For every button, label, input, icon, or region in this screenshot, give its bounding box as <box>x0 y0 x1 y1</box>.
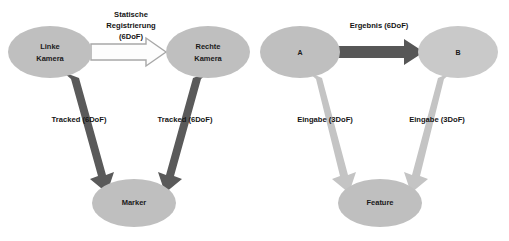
statische-registrierung-label-line1: Statische <box>114 10 148 19</box>
linke-kamera-ellipse <box>8 26 92 78</box>
edge-eingabe-right <box>404 72 452 193</box>
tracked-right-arrow-icon <box>158 72 209 193</box>
rechte-kamera-label-line1: Rechte <box>195 42 220 51</box>
eingabe-left-arrow-icon <box>308 72 356 193</box>
ergebnis-arrow-icon <box>331 39 424 65</box>
eingabe-right-label: Eingabe (3DoF) <box>409 115 465 124</box>
statische-registrierung-arrow-icon <box>91 38 166 66</box>
label-statische-registrierung: Statische Registrierung (6DoF) <box>106 10 156 41</box>
statische-registrierung-label-line3: (6DoF) <box>119 32 144 41</box>
node-a[interactable]: A <box>260 26 340 78</box>
feature-label: Feature <box>366 198 393 207</box>
marker-label: Marker <box>122 198 147 207</box>
node-rechte-kamera[interactable]: Rechte Kamera <box>166 26 250 78</box>
edge-ergebnis <box>331 39 424 65</box>
a-label: A <box>297 49 302 56</box>
edge-eingabe-left <box>308 72 356 193</box>
diagram-svg: Linke Kamera Rechte Kamera Marker Statis… <box>0 0 509 241</box>
rechte-kamera-ellipse <box>166 26 250 78</box>
tracked-right-label: Tracked (6DoF) <box>158 115 213 124</box>
tracked-left-arrow-icon <box>63 72 114 193</box>
diagram-canvas: Linke Kamera Rechte Kamera Marker Statis… <box>0 0 509 241</box>
node-b[interactable]: B <box>418 26 498 78</box>
b-label: B <box>455 49 460 56</box>
eingabe-right-arrow-icon <box>404 72 452 193</box>
linke-kamera-label-line2: Kamera <box>36 54 64 63</box>
edge-tracked-right <box>158 72 209 193</box>
ergebnis-label: Ergebnis (6DoF) <box>350 21 409 30</box>
node-linke-kamera[interactable]: Linke Kamera <box>8 26 92 78</box>
eingabe-left-label: Eingabe (3DoF) <box>297 115 353 124</box>
rechte-kamera-label-line2: Kamera <box>194 54 222 63</box>
tracked-left-label: Tracked (6DoF) <box>52 115 107 124</box>
statische-registrierung-label-line2: Registrierung <box>106 21 156 30</box>
node-marker[interactable]: Marker <box>92 179 176 227</box>
edge-tracked-left <box>63 72 114 193</box>
node-feature[interactable]: Feature <box>338 179 422 227</box>
edge-statische-registrierung <box>91 38 166 66</box>
linke-kamera-label-line1: Linke <box>40 42 60 51</box>
